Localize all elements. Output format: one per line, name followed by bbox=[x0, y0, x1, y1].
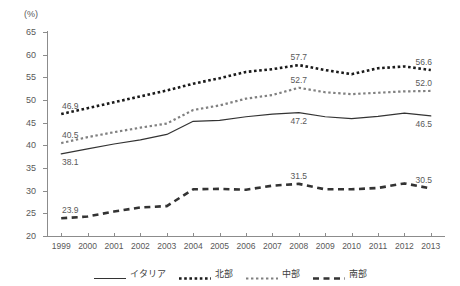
legend-label: 南部 bbox=[349, 267, 367, 280]
dotted-thick-key bbox=[179, 269, 211, 278]
dashed-key bbox=[313, 269, 345, 278]
line-chart: (%) 20253035404550556065 199920002001200… bbox=[0, 0, 460, 286]
data-point-label: 52.0 bbox=[416, 78, 433, 88]
data-point-label: 23.9 bbox=[62, 205, 79, 215]
series-line-中部 bbox=[61, 88, 431, 143]
chart-legend: イタリア北部中部南部 bbox=[0, 264, 460, 282]
data-point-label: 40.5 bbox=[62, 130, 79, 140]
data-point-label: 30.5 bbox=[416, 175, 433, 185]
legend-item-中部[interactable]: 中部 bbox=[246, 267, 300, 280]
data-point-label: 52.7 bbox=[291, 75, 308, 85]
series-line-南部 bbox=[61, 183, 431, 218]
legend-item-イタリア[interactable]: イタリア bbox=[94, 267, 166, 280]
legend-label: 中部 bbox=[282, 267, 300, 280]
legend-label: イタリア bbox=[130, 267, 166, 280]
legend-item-北部[interactable]: 北部 bbox=[179, 267, 233, 280]
data-point-label: 38.1 bbox=[62, 157, 79, 167]
data-point-label: 57.7 bbox=[291, 52, 308, 62]
dotted-gray-key bbox=[246, 269, 278, 278]
data-point-label: 47.2 bbox=[291, 116, 308, 126]
series-line-北部 bbox=[61, 65, 431, 114]
solid-line-key bbox=[94, 269, 126, 278]
legend-label: 北部 bbox=[215, 267, 233, 280]
series-plot-area bbox=[0, 0, 460, 286]
legend-item-南部[interactable]: 南部 bbox=[313, 267, 367, 280]
data-point-label: 46.9 bbox=[62, 101, 79, 111]
data-point-label: 46.5 bbox=[416, 119, 433, 129]
data-point-label: 31.5 bbox=[291, 171, 308, 181]
data-point-label: 56.6 bbox=[416, 57, 433, 67]
series-line-イタリア bbox=[61, 113, 431, 154]
